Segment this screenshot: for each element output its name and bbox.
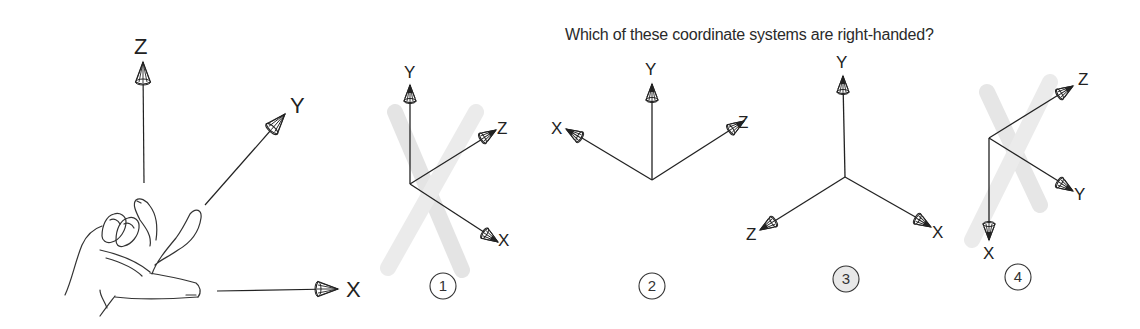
s2-y-label: Y <box>645 60 656 79</box>
cross-mark-icon <box>388 112 476 270</box>
s1-y-arrow-icon <box>404 85 416 104</box>
hand-x-arrow-icon <box>315 282 338 297</box>
s4-x-label: X <box>983 244 994 263</box>
s1-y-label: Y <box>404 63 415 82</box>
diagram-canvas: Which of these coordinate systems are ri… <box>0 0 1140 329</box>
s3-x-arrow-icon <box>912 212 934 232</box>
hand-y-axis <box>205 122 278 205</box>
coordinate-system-4[interactable]: Z Y X 4 <box>972 70 1088 290</box>
s1-number: 1 <box>439 277 447 294</box>
s2-y-arrow-icon <box>646 84 658 103</box>
s3-number: 3 <box>842 270 850 287</box>
coordinate-system-3[interactable]: Y Z X 3 <box>746 53 943 292</box>
s2-number: 2 <box>648 277 656 294</box>
s1-x-label: X <box>498 231 509 250</box>
hand-x-label: X <box>346 277 361 302</box>
hand-y-arrow-icon <box>264 109 290 136</box>
cross-mark-icon <box>972 82 1050 240</box>
s4-y-arrow-icon <box>1054 176 1076 196</box>
s3-z-label: Z <box>746 225 756 244</box>
s1-z-label: Z <box>497 119 507 138</box>
coordinate-system-1[interactable]: Y Z X 1 <box>388 63 509 299</box>
hand-z-arrow-icon <box>136 62 151 85</box>
s2-z-label: Z <box>738 113 748 132</box>
s4-y-label: Y <box>1074 185 1085 204</box>
hand-y-label: Y <box>290 93 305 118</box>
coordinate-system-2[interactable]: Y X Z 2 <box>551 60 748 299</box>
reference-hand-group: Z Y X <box>65 34 361 316</box>
s4-z-label: Z <box>1078 70 1088 89</box>
s3-x-label: X <box>932 223 943 242</box>
s4-number: 4 <box>1014 268 1022 285</box>
coordinate-systems-figure: Z Y X Y Z X 1 <box>0 0 1140 329</box>
s2-x-arrow-icon <box>563 124 585 144</box>
s3-y-label: Y <box>836 53 847 72</box>
s3-z-arrow-icon <box>757 215 779 235</box>
question-title: Which of these coordinate systems are ri… <box>565 26 934 44</box>
hand-z-label: Z <box>134 34 147 59</box>
s2-x-label: X <box>551 119 562 138</box>
s3-y-arrow-icon <box>837 76 849 95</box>
hand-icon <box>65 199 201 316</box>
s1-z-arrow-icon <box>477 125 499 145</box>
